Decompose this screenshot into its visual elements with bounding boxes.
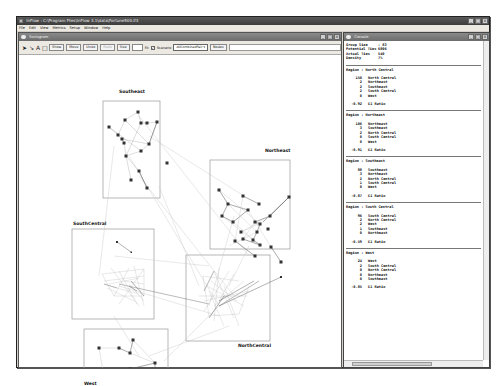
show-button[interactable]: Show bbox=[49, 44, 64, 51]
tie-region: Northeast bbox=[368, 231, 387, 235]
inflow-app-window: InFlow : C:\Program Files\InFlow 3.1\dat… bbox=[16, 16, 490, 368]
region-label-northeast: Northeast bbox=[265, 148, 290, 153]
scenario-checkbox[interactable]: ✓ bbox=[151, 46, 155, 50]
menu-edit[interactable]: Edit bbox=[29, 25, 36, 31]
network-canvas[interactable]: Southeast Northeast SouthCentral NorthCe… bbox=[19, 56, 341, 367]
console-minimize-button[interactable]: _ bbox=[468, 34, 474, 40]
region-box-southcentral bbox=[72, 229, 154, 319]
nodes bbox=[98, 111, 291, 369]
region-header: Region : North Central bbox=[346, 68, 481, 72]
sociogram-maximize-button[interactable]: □ bbox=[327, 34, 333, 40]
console-window: Console _ □ × Group Size: 83 Potential T… bbox=[343, 32, 490, 368]
tie-count: 0 bbox=[346, 277, 368, 281]
console-maximize-button[interactable]: □ bbox=[475, 34, 481, 40]
menu-bar: File Edit View Metrics Setup Window Help bbox=[17, 25, 489, 31]
region-header: Region : Southeast bbox=[346, 159, 481, 163]
menu-window[interactable]: Window bbox=[84, 25, 98, 31]
text-tool-icon[interactable]: A bbox=[36, 44, 40, 51]
ei-ratio-value: -0.59 bbox=[346, 240, 368, 244]
undo-button[interactable]: Undo bbox=[83, 44, 98, 51]
console-close-button[interactable]: × bbox=[482, 34, 488, 40]
summary-key: Density bbox=[346, 56, 378, 60]
box-tool-icon[interactable]: □ bbox=[42, 44, 47, 51]
scenario-label: Scenario bbox=[157, 46, 172, 50]
region-box-southeast bbox=[103, 101, 160, 198]
tie-count: 0 bbox=[346, 94, 368, 98]
console-title: Console bbox=[354, 35, 368, 39]
sociogram-title-bar[interactable]: Sociogram _ □ × bbox=[19, 33, 341, 41]
menu-help[interactable]: Help bbox=[102, 25, 110, 31]
region-label-southeast: Southeast bbox=[119, 89, 145, 94]
tie-region: West bbox=[368, 185, 377, 189]
pointer-tool-icon[interactable]: ➤ bbox=[22, 44, 27, 51]
ei-ratio-value: -0.85 bbox=[346, 285, 368, 289]
sociogram-window: Sociogram _ □ × ➤ ↘ A □ Show Move Undo R… bbox=[18, 32, 342, 368]
tie-region: Southeast bbox=[368, 277, 387, 281]
link-tool-icon[interactable]: ↘ bbox=[29, 44, 34, 51]
size-input[interactable] bbox=[132, 44, 143, 51]
node-search-input[interactable] bbox=[229, 44, 341, 51]
tie-region: West bbox=[368, 94, 377, 98]
menu-view[interactable]: View bbox=[40, 25, 49, 31]
close-button[interactable]: × bbox=[482, 18, 488, 24]
region-report-southeast: Region : Southeast 88Southeast 3Northeas… bbox=[346, 156, 481, 198]
sociogram-icon bbox=[21, 35, 26, 39]
ei-ratio-value: -0.92 bbox=[346, 102, 368, 106]
region-header: Region : South Central bbox=[346, 205, 481, 209]
console-icon bbox=[346, 35, 351, 39]
region-header: Region : Northeast bbox=[346, 113, 481, 117]
app-icon bbox=[19, 19, 23, 23]
size-button[interactable]: Size bbox=[117, 44, 130, 51]
region-box-northcentral bbox=[186, 255, 270, 341]
app-title-bar[interactable]: InFlow : C:\Program Files\InFlow 3.1\dat… bbox=[17, 17, 489, 25]
scenario-select[interactable]: AllCombinedPair ▾ bbox=[173, 44, 208, 51]
console-title-bar[interactable]: Console _ □ × bbox=[344, 33, 489, 41]
tie-count: 0 bbox=[346, 231, 368, 235]
ei-ratio-value: -0.91 bbox=[346, 148, 368, 152]
tie-count: 0 bbox=[346, 140, 368, 144]
network-graph bbox=[19, 56, 341, 368]
sociogram-minimize-button[interactable]: _ bbox=[320, 34, 326, 40]
ei-ratio-label: EI Ratio bbox=[368, 240, 385, 244]
region-label-northcentral: NorthCentral bbox=[238, 343, 271, 348]
scenario-select-value: AllCombinedPair bbox=[176, 45, 202, 50]
region-label-southcentral: SouthCentral bbox=[73, 221, 106, 226]
menu-metrics[interactable]: Metrics bbox=[53, 25, 66, 31]
console-vertical-scrollbar[interactable] bbox=[483, 41, 489, 360]
chevron-down-icon: ▾ bbox=[203, 45, 205, 50]
redo-button[interactable]: Redo bbox=[100, 44, 115, 51]
region-report-south-central: Region : South Central 96South Central 2… bbox=[346, 202, 481, 244]
region-header: Region : West bbox=[346, 251, 481, 255]
move-button[interactable]: Move bbox=[66, 44, 81, 51]
console-scroll-thumb[interactable] bbox=[352, 362, 432, 366]
network-summary: Group Size: 83 Potential Ties6806 Actual… bbox=[346, 43, 481, 61]
nodes-button[interactable]: Nodes bbox=[210, 44, 227, 51]
app-title: InFlow : C:\Program Files\InFlow 3.1\dat… bbox=[26, 18, 138, 23]
console-horizontal-scrollbar[interactable] bbox=[344, 360, 483, 367]
ei-ratio-label: EI Ratio bbox=[368, 285, 385, 289]
ei-ratio-value: -0.87 bbox=[346, 194, 368, 198]
tie-count: 0 bbox=[346, 185, 368, 189]
ei-ratio-label: EI Ratio bbox=[368, 102, 385, 106]
sociogram-title: Sociogram bbox=[29, 35, 48, 39]
fit-label: Fit bbox=[145, 46, 149, 50]
ei-ratio-label: EI Ratio bbox=[368, 148, 385, 152]
sociogram-toolbar: ➤ ↘ A □ Show Move Undo Redo Size Fit ✓ S… bbox=[19, 41, 341, 55]
console-output[interactable]: Group Size: 83 Potential Ties6806 Actual… bbox=[344, 41, 483, 360]
region-label-west: West bbox=[84, 381, 97, 386]
minimize-button[interactable]: _ bbox=[468, 18, 474, 24]
sociogram-close-button[interactable]: × bbox=[334, 34, 340, 40]
region-report-north-central: Region : North Central 150North Central … bbox=[346, 65, 481, 107]
maximize-button[interactable]: □ bbox=[475, 18, 481, 24]
menu-file[interactable]: File bbox=[19, 25, 25, 31]
menu-setup[interactable]: Setup bbox=[70, 25, 80, 31]
region-report-west: Region : West 24West 2South Central 0Nor… bbox=[346, 248, 481, 290]
tie-region: West bbox=[368, 140, 377, 144]
region-report-northeast: Region : Northeast 106Northeast 3Southea… bbox=[346, 110, 481, 152]
ei-ratio-label: EI Ratio bbox=[368, 194, 385, 198]
summary-value: 7% bbox=[378, 56, 382, 60]
